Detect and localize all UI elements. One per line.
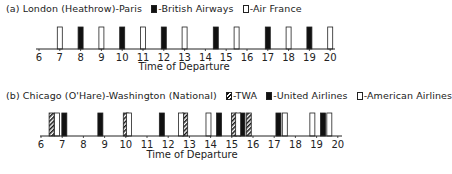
tick-label: 17 bbox=[268, 139, 281, 150]
tick-label: 6 bbox=[38, 139, 44, 150]
chart-b-xlabel: Time of Departure bbox=[145, 149, 237, 160]
tick-label: 18 bbox=[289, 139, 302, 150]
bar-united-airlines bbox=[320, 113, 325, 136]
tick-label: 7 bbox=[57, 52, 63, 63]
tick-label: 19 bbox=[310, 139, 323, 150]
bar-air-france bbox=[328, 27, 333, 49]
bar-united-airlines bbox=[98, 113, 103, 136]
chart-b-plot: 67891011121314151617181920 bbox=[38, 113, 344, 150]
bar-american-airlines bbox=[126, 113, 131, 136]
tick-label: 7 bbox=[59, 139, 65, 150]
bar-twa bbox=[49, 113, 54, 136]
tick-label: 9 bbox=[98, 52, 104, 63]
bar-american-airlines bbox=[206, 113, 211, 136]
tick-label: 17 bbox=[261, 52, 274, 63]
tick-label: 18 bbox=[282, 52, 295, 63]
bar-american-airlines bbox=[282, 113, 287, 136]
tick-label: 20 bbox=[331, 139, 344, 150]
tick-label: 10 bbox=[116, 52, 129, 63]
tick-label: 16 bbox=[247, 139, 260, 150]
bar-american-airlines bbox=[54, 113, 59, 136]
tick-label: 10 bbox=[119, 139, 132, 150]
bar-british-airways bbox=[78, 27, 83, 49]
chart-a-xlabel: Time of Departure bbox=[137, 61, 229, 72]
bar-united-airlines bbox=[159, 113, 164, 136]
bar-air-france bbox=[182, 27, 187, 49]
bar-american-airlines bbox=[327, 113, 332, 136]
bar-united-airlines bbox=[217, 113, 222, 136]
tick-label: 16 bbox=[241, 52, 254, 63]
bar-air-france bbox=[141, 27, 146, 49]
bar-air-france bbox=[99, 27, 104, 49]
tick-label: 19 bbox=[303, 52, 316, 63]
bar-british-airways bbox=[120, 27, 125, 49]
bar-british-airways bbox=[213, 27, 218, 49]
bar-united-airlines bbox=[276, 113, 281, 136]
bar-air-france bbox=[286, 27, 291, 49]
bar-british-airways bbox=[265, 27, 270, 49]
bar-british-airways bbox=[161, 27, 166, 49]
bar-air-france bbox=[234, 27, 239, 49]
bar-american-airlines bbox=[178, 113, 183, 136]
bar-air-france bbox=[57, 27, 62, 49]
bar-american-airlines bbox=[310, 113, 315, 136]
bar-british-airways bbox=[307, 27, 312, 49]
bar-twa bbox=[246, 113, 251, 136]
tick-label: 20 bbox=[324, 52, 337, 63]
tick-label: 9 bbox=[101, 139, 107, 150]
tick-label: 8 bbox=[77, 52, 83, 63]
tick-label: 6 bbox=[36, 52, 42, 63]
chart-a-plot: 67891011121314151617181920 bbox=[36, 27, 337, 63]
bar-united-airlines bbox=[62, 113, 67, 136]
tick-label: 8 bbox=[80, 139, 86, 150]
bar-american-airlines bbox=[236, 113, 241, 136]
